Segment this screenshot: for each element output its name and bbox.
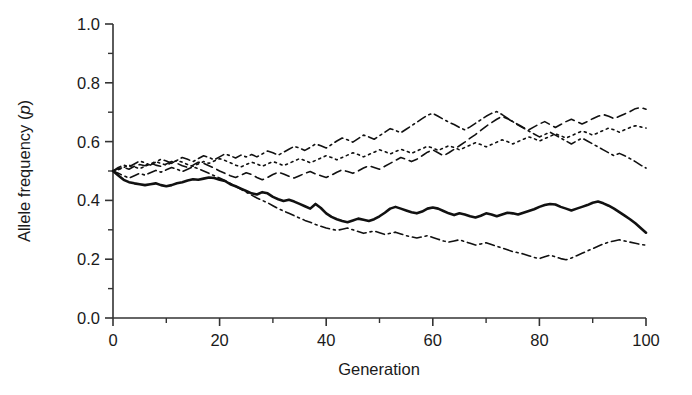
y-tick-label: 0.8 bbox=[77, 74, 100, 92]
genetic-drift-chart: 0.00.20.40.60.81.0 020406080100 Generati… bbox=[0, 0, 692, 395]
y-axis-title: Allele frequency (p) bbox=[15, 100, 33, 242]
y-tick-label: 0.6 bbox=[77, 133, 100, 151]
y-axis-tick-labels: 0.00.20.40.60.81.0 bbox=[77, 15, 100, 327]
data-series-group bbox=[113, 107, 646, 259]
plot-frame bbox=[113, 24, 646, 318]
series-line-population-2-dashed bbox=[113, 107, 646, 179]
y-tick-label: 0.4 bbox=[77, 191, 100, 209]
x-tick-label: 0 bbox=[108, 331, 117, 349]
x-axis-title: Generation bbox=[338, 360, 420, 378]
plot-canvas: 0.00.20.40.60.81.0 020406080100 Generati… bbox=[0, 0, 692, 395]
x-tick-label: 40 bbox=[317, 331, 335, 349]
x-tick-label: 100 bbox=[632, 331, 660, 349]
y-tick-label: 0.2 bbox=[77, 250, 100, 268]
series-line-population-1-solid bbox=[113, 171, 646, 233]
x-tick-label: 80 bbox=[530, 331, 548, 349]
y-tick-label: 1.0 bbox=[77, 15, 100, 33]
x-tick-label: 60 bbox=[424, 331, 442, 349]
y-tick-label: 0.0 bbox=[77, 309, 100, 327]
series-line-population-5-dashdot-lower bbox=[113, 167, 646, 260]
x-axis-tick-labels: 020406080100 bbox=[108, 331, 659, 349]
x-tick-label: 20 bbox=[210, 331, 228, 349]
series-line-population-4-dashdot-upper bbox=[113, 112, 646, 171]
